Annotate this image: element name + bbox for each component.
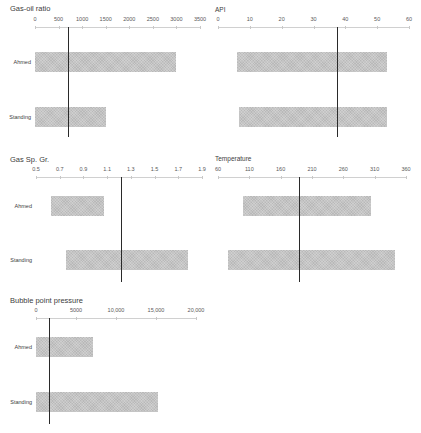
axis-tick — [282, 26, 283, 29]
axis-tick — [196, 317, 197, 320]
category-label: Standing — [1, 114, 31, 120]
tick-label: 0 — [33, 16, 36, 22]
range-bar-standing — [239, 107, 387, 127]
range-bar-standing — [35, 107, 106, 127]
tick-label: 40 — [342, 16, 348, 22]
tick-label: 260 — [339, 166, 348, 172]
tick-label: 310 — [370, 166, 379, 172]
tick-label: 160 — [276, 166, 285, 172]
reference-line — [299, 177, 300, 282]
range-bar-ahmed — [35, 52, 176, 72]
tick-label: 1.5 — [151, 166, 159, 172]
tick-label: 1.1 — [103, 166, 111, 172]
axis-tick — [106, 26, 107, 29]
axis-tick — [107, 176, 108, 179]
tick-label: 20,000 — [188, 307, 205, 313]
tick-label: 0 — [216, 16, 219, 22]
chart-title: Gas Sp. Gr. — [10, 155, 49, 164]
tick-label: 1.7 — [174, 166, 182, 172]
axis-tick — [60, 176, 61, 179]
reference-line — [121, 177, 122, 282]
category-label: Standing — [2, 257, 32, 263]
axis-tick — [116, 317, 117, 320]
tick-label: 15,000 — [148, 307, 165, 313]
tick-label: 0.9 — [80, 166, 88, 172]
tick-label: 10 — [247, 16, 253, 22]
tick-label: 2500 — [147, 16, 159, 22]
tick-label: 30 — [310, 16, 316, 22]
axis-tick — [409, 26, 410, 29]
chart-title: Gas-oil ratio — [10, 4, 50, 13]
range-bar-ahmed — [51, 196, 103, 216]
reference-line — [68, 27, 69, 137]
tick-label: 20 — [279, 16, 285, 22]
axis-tick — [131, 176, 132, 179]
tick-label: 60 — [215, 166, 221, 172]
range-bar-standing — [66, 250, 188, 270]
axis-tick — [202, 176, 203, 179]
axis-tick — [35, 26, 36, 29]
tick-label: 0.5 — [32, 166, 40, 172]
range-bar-ahmed — [243, 196, 371, 216]
chart-title: Temperature — [215, 155, 252, 162]
tick-label: 1.3 — [127, 166, 135, 172]
tick-label: 110 — [245, 166, 254, 172]
axis-tick — [314, 26, 315, 29]
axis-tick — [312, 176, 313, 179]
tick-label: 3500 — [194, 16, 206, 22]
category-label: Standing — [2, 399, 32, 405]
axis-tick — [178, 176, 179, 179]
axis-tick — [218, 176, 219, 179]
tick-label: 50 — [374, 16, 380, 22]
axis-tick — [281, 176, 282, 179]
range-bar-ahmed — [36, 337, 93, 357]
range-bar-standing — [228, 250, 395, 270]
tick-label: 5000 — [70, 307, 82, 313]
range-bar-standing — [36, 392, 158, 412]
axis-tick — [153, 26, 154, 29]
axis-tick — [36, 176, 37, 179]
tick-label: 3000 — [170, 16, 182, 22]
tick-label: 1000 — [76, 16, 88, 22]
range-bar-ahmed — [237, 52, 387, 72]
axis-tick — [375, 176, 376, 179]
tick-label: 10,000 — [108, 307, 125, 313]
axis-tick — [345, 26, 346, 29]
tick-label: 1500 — [100, 16, 112, 22]
axis-tick — [83, 176, 84, 179]
axis-tick — [176, 26, 177, 29]
axis-tick — [36, 317, 37, 320]
tick-label: 360 — [401, 166, 410, 172]
x-axis — [36, 177, 202, 178]
chart-title: API — [215, 6, 225, 13]
axis-tick — [76, 317, 77, 320]
axis-tick — [249, 176, 250, 179]
axis-tick — [82, 26, 83, 29]
tick-label: 500 — [54, 16, 63, 22]
tick-label: 0 — [34, 307, 37, 313]
axis-tick — [59, 26, 60, 29]
axis-tick — [129, 26, 130, 29]
tick-label: 2000 — [123, 16, 135, 22]
category-label: Ahmed — [2, 344, 32, 350]
axis-tick — [343, 176, 344, 179]
axis-tick — [200, 26, 201, 29]
category-label: Ahmed — [1, 59, 31, 65]
axis-tick — [406, 176, 407, 179]
reference-line — [49, 318, 50, 424]
x-axis — [35, 27, 200, 28]
axis-tick — [250, 26, 251, 29]
tick-label: 0.7 — [56, 166, 64, 172]
axis-tick — [377, 26, 378, 29]
tick-label: 210 — [307, 166, 316, 172]
axis-tick — [155, 176, 156, 179]
category-label: Ahmed — [2, 203, 32, 209]
reference-line — [337, 27, 338, 137]
tick-label: 1.9 — [198, 166, 206, 172]
chart-title: Bubble point pressure — [10, 296, 83, 305]
axis-tick — [156, 317, 157, 320]
tick-label: 60 — [406, 16, 412, 22]
axis-tick — [218, 26, 219, 29]
